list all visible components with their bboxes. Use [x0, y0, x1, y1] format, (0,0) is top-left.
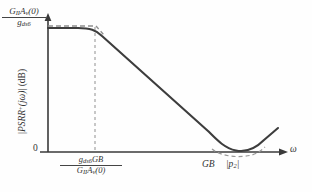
x-axis-arrowhead: [279, 148, 288, 155]
x-axis-omega-label: ω: [290, 145, 297, 155]
y-axis-max-value-label: GIIAv(0) gds6: [2, 7, 46, 28]
y-axis-zero-label: 0: [33, 144, 38, 154]
y-axis: [45, 13, 52, 152]
y-axis-max-numerator: GIIAv(0): [2, 7, 46, 18]
psrr-bode-figure: GIIAv(0) gds6 |PSRR+(jω)| (dB) 0 gds6GB …: [0, 0, 312, 192]
x-tick-corner-frequency: gds6GB GIIAv(0): [60, 155, 122, 176]
plot-canvas: [0, 0, 312, 192]
x-tick-second-pole: |p2|: [226, 160, 239, 170]
x-tick-corner-denominator: GIIAv(0): [60, 166, 122, 176]
y-axis-max-denominator: gds6: [2, 18, 46, 28]
psrr-response-curve: [48, 28, 278, 151]
x-tick-gain-bandwidth: GB: [202, 160, 215, 170]
y-axis-caption: |PSRR+(jω)| (dB): [18, 46, 29, 156]
